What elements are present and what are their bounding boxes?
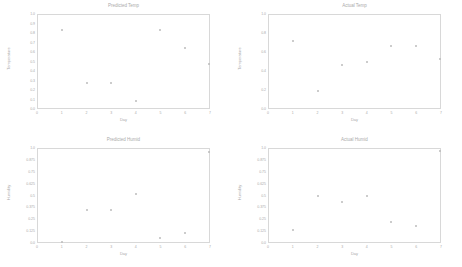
- y-tick-label: 0.0: [15, 241, 35, 245]
- data-point: [292, 229, 294, 231]
- chart-title: Predicted Temp: [37, 3, 210, 8]
- x-tick-label: 1: [289, 111, 297, 115]
- y-tick-label: 0.7: [15, 41, 35, 45]
- y-tick-label: 0.8: [15, 31, 35, 35]
- x-tick-label: 6: [412, 245, 420, 249]
- y-axis-label: Humidity: [6, 173, 11, 213]
- x-tick-label: 7: [437, 245, 445, 249]
- x-axis-label: Day: [37, 117, 210, 122]
- x-tick-label: 3: [338, 111, 346, 115]
- x-tick-label: 4: [363, 245, 371, 249]
- data-point: [208, 151, 210, 153]
- y-tick-label: 0.625: [246, 182, 266, 186]
- data-point: [366, 195, 368, 197]
- x-tick-label: 2: [313, 111, 321, 115]
- x-tick-label: 3: [338, 245, 346, 249]
- y-tick-label: 0.0: [246, 107, 266, 111]
- data-point: [390, 45, 392, 47]
- x-tick-label: 0: [33, 245, 41, 249]
- y-tick-label: 0.6: [246, 50, 266, 54]
- data-point: [390, 221, 392, 223]
- x-tick-label: 4: [132, 111, 140, 115]
- data-point: [415, 45, 417, 47]
- data-point: [135, 193, 137, 195]
- data-point: [439, 58, 441, 60]
- x-tick-label: 1: [58, 111, 66, 115]
- y-tick-label: 1.0: [246, 146, 266, 150]
- x-tick-label: 5: [157, 245, 165, 249]
- data-point: [159, 29, 161, 31]
- scatter-panel-1: Predicted TempTemperatureDay1.00.90.80.7…: [0, 0, 231, 133]
- x-tick-label: 1: [289, 245, 297, 249]
- scatter-panel-3: Predicted HumidHumidityDay1.00.8750.750.…: [0, 134, 231, 267]
- data-point: [184, 47, 186, 49]
- x-tick-label: 6: [181, 245, 189, 249]
- y-axis-label: Temperature: [237, 39, 242, 79]
- y-tick-label: 0.125: [246, 229, 266, 233]
- x-tick-label: 3: [107, 245, 115, 249]
- y-tick-label: 1.0: [15, 12, 35, 16]
- data-point: [341, 64, 343, 66]
- y-tick-label: 0.4: [15, 69, 35, 73]
- y-tick-label: 0.5: [15, 194, 35, 198]
- y-axis-label: Temperature: [6, 39, 11, 79]
- x-tick-label: 0: [33, 111, 41, 115]
- x-tick-label: 7: [206, 245, 214, 249]
- y-tick-label: 0.6: [15, 50, 35, 54]
- data-point: [110, 209, 112, 211]
- y-tick-label: 0.25: [15, 217, 35, 221]
- data-point: [135, 100, 137, 102]
- x-tick-label: 7: [437, 111, 445, 115]
- x-tick-label: 1: [58, 245, 66, 249]
- y-tick-label: 0.5: [15, 60, 35, 64]
- y-tick-label: 0.8: [246, 31, 266, 35]
- y-tick-label: 0.0: [246, 241, 266, 245]
- y-tick-label: 1.0: [246, 12, 266, 16]
- x-tick-label: 6: [412, 111, 420, 115]
- y-tick-label: 0.25: [246, 217, 266, 221]
- x-tick-label: 2: [313, 245, 321, 249]
- chart-title: Actual Humid: [268, 137, 441, 142]
- y-tick-label: 0.5: [246, 194, 266, 198]
- y-tick-label: 0.625: [15, 182, 35, 186]
- x-tick-label: 3: [107, 111, 115, 115]
- scatter-panel-2: Actual TempTemperatureDay1.00.80.60.40.2…: [231, 0, 462, 133]
- x-tick-label: 2: [82, 245, 90, 249]
- y-tick-label: 0.2: [15, 88, 35, 92]
- y-tick-label: 0.375: [15, 205, 35, 209]
- data-point: [415, 225, 417, 227]
- y-tick-label: 0.375: [246, 205, 266, 209]
- x-tick-label: 5: [157, 111, 165, 115]
- data-point: [317, 90, 319, 92]
- y-tick-label: 0.125: [15, 229, 35, 233]
- x-tick-label: 5: [388, 245, 396, 249]
- x-tick-label: 0: [264, 245, 272, 249]
- x-tick-label: 4: [363, 111, 371, 115]
- y-tick-label: 0.75: [246, 170, 266, 174]
- y-tick-label: 1.0: [15, 146, 35, 150]
- scatter-panel-4: Actual HumidHumidityDay1.00.8750.750.625…: [231, 134, 462, 267]
- y-tick-label: 0.75: [15, 170, 35, 174]
- data-point: [366, 61, 368, 63]
- y-axis-label: Humidity: [237, 173, 242, 213]
- x-tick-label: 4: [132, 245, 140, 249]
- plot-area: [37, 148, 210, 243]
- data-point: [159, 237, 161, 239]
- data-point: [184, 232, 186, 234]
- data-point: [208, 63, 210, 65]
- x-tick-label: 5: [388, 111, 396, 115]
- plot-area: [37, 14, 210, 109]
- plot-area: [268, 14, 441, 109]
- data-point: [110, 82, 112, 84]
- y-tick-label: 0.3: [15, 79, 35, 83]
- x-axis-label: Day: [268, 251, 441, 256]
- x-tick-label: 6: [181, 111, 189, 115]
- data-point: [317, 195, 319, 197]
- x-axis-label: Day: [37, 251, 210, 256]
- data-point: [61, 241, 63, 243]
- data-point: [292, 40, 294, 42]
- plot-area: [268, 148, 441, 243]
- x-tick-label: 2: [82, 111, 90, 115]
- y-tick-label: 0.9: [15, 22, 35, 26]
- data-point: [439, 150, 441, 152]
